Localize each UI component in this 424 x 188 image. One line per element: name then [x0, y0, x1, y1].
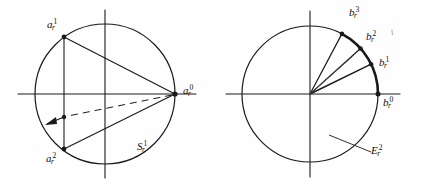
- chord-a1-a0: [64, 37, 175, 94]
- label-e-r-2: Er2: [371, 144, 382, 158]
- radius-to-b1: [310, 64, 371, 94]
- label-b-r-2: br2: [366, 30, 376, 44]
- label-a-r-0: ar0: [183, 84, 193, 98]
- arrow-head-midpoint: [45, 117, 57, 125]
- point-a-midpoint-dot: [62, 115, 66, 119]
- point-a0-dot: [172, 91, 177, 96]
- label-a-r-2: ar2: [46, 152, 56, 166]
- label-s-r-1: Sr1: [137, 140, 147, 154]
- radius-to-b3: [310, 34, 342, 94]
- label-b-r-3: br3: [349, 6, 359, 20]
- chord-a2-a0: [64, 94, 175, 149]
- figure-svg: [0, 0, 424, 188]
- figure-root: ar1 ar0 ar2 Sr1 br3 br2 \ br1 br0 Er2: [0, 0, 424, 188]
- label-b-r-0: br0: [383, 96, 393, 110]
- point-b0-dot: [376, 92, 381, 97]
- label-a-r-1: ar1: [47, 18, 57, 32]
- point-a2-dot: [62, 147, 67, 152]
- point-b1-dot: [369, 62, 374, 67]
- point-a1-dot: [62, 35, 67, 40]
- label-b-r-1: br1: [379, 56, 389, 70]
- radius-intermediate: [310, 57, 353, 95]
- point-b3-dot: [340, 32, 345, 37]
- point-b2-dot: [358, 46, 363, 51]
- left-circle-diagram: [18, 10, 196, 178]
- dashed-line-a0-midpoint: [68, 95, 172, 116]
